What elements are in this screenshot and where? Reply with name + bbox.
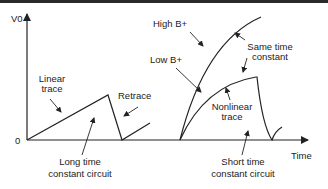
high-b-plus-label: High B+ — [153, 19, 187, 29]
high-b-plus-pointer — [190, 32, 203, 46]
origin-label: 0 — [15, 136, 20, 146]
low-b-plus-pointer — [176, 68, 201, 92]
nonlinear-pointer — [226, 88, 230, 100]
same-time-constant-label: Same time constant — [242, 42, 298, 62]
short-time-constant-label: Short time constant circuit — [205, 157, 281, 179]
y-axis-label: V0 — [11, 14, 23, 24]
short-tc-pointer — [242, 131, 248, 155]
retrace-pointer — [124, 107, 138, 116]
same-tc-upper-pointer — [235, 33, 245, 40]
long-time-constant-label: Long time constant circuit — [45, 157, 115, 179]
linear-trace-label: Linear trace — [34, 74, 70, 94]
linear-trace-pointer — [50, 99, 61, 112]
low-b-plus-label: Low B+ — [150, 55, 182, 65]
retrace-label: Retrace — [118, 91, 151, 101]
x-axis-label: Time — [291, 151, 312, 161]
linear-sawtooth-trace — [27, 95, 150, 140]
long-tc-pointer — [82, 118, 94, 155]
nonlinear-trace-label: Nonlinear trace — [210, 102, 254, 122]
